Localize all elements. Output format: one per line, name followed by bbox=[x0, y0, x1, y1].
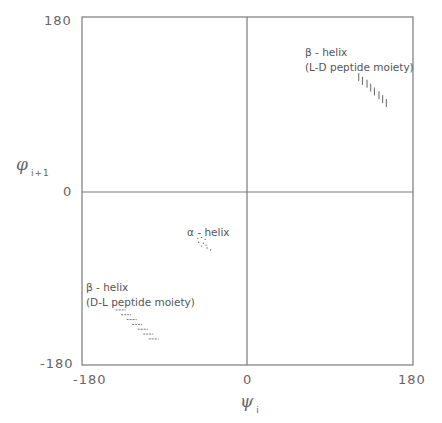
x-tick-180: 180 bbox=[398, 372, 426, 387]
beta-helix-ld-title: β - helix bbox=[305, 46, 347, 58]
dot-marker bbox=[198, 242, 199, 243]
y-axis-subscript: i+1 bbox=[31, 168, 50, 178]
y-axis-label: φi+1 bbox=[16, 154, 50, 174]
beta-helix-dl-title: β - helix bbox=[86, 281, 128, 293]
x-axis-subscript: i bbox=[256, 405, 260, 415]
beta-helix-dl-subtitle: (D-L peptide moiety) bbox=[86, 296, 195, 308]
dot-marker bbox=[201, 245, 202, 246]
y-tick-0: 0 bbox=[63, 184, 72, 199]
y-tick-180: 180 bbox=[44, 13, 72, 28]
dot-marker bbox=[205, 244, 206, 245]
beta-helix-ld-subtitle: (L-D peptide moiety) bbox=[305, 61, 414, 73]
x-tick-0: 0 bbox=[243, 372, 252, 387]
dot-marker bbox=[205, 239, 206, 240]
y-tick-minus-180: -180 bbox=[40, 356, 74, 371]
dot-marker bbox=[203, 243, 204, 244]
alpha-helix-title: α - helix bbox=[187, 226, 230, 238]
x-axis-label: ψi bbox=[240, 391, 260, 411]
phi-symbol: φ bbox=[16, 154, 29, 174]
dot-marker bbox=[206, 247, 207, 248]
dot-marker bbox=[210, 249, 211, 250]
psi-symbol: ψ bbox=[240, 391, 254, 411]
x-tick-minus-180: -180 bbox=[73, 372, 107, 387]
